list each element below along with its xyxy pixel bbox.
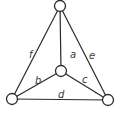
edge-label-a: a bbox=[70, 49, 76, 60]
graph-diagram: a b c d e f bbox=[0, 0, 120, 114]
node-bottom-right bbox=[103, 95, 114, 106]
edge-a bbox=[60, 6, 61, 71]
edge-e bbox=[60, 6, 108, 100]
edge-label-c: c bbox=[82, 74, 88, 85]
node-bottom-left bbox=[7, 94, 18, 105]
edge-label-e: e bbox=[89, 50, 95, 61]
edge-label-b: b bbox=[35, 75, 41, 86]
node-center bbox=[56, 66, 67, 77]
edge-label-d: d bbox=[58, 89, 65, 100]
node-top bbox=[55, 1, 66, 12]
